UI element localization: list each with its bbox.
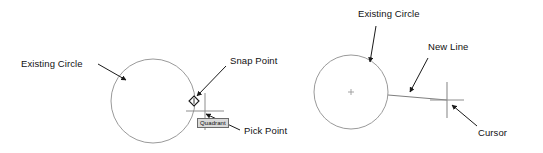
quadrant-snap-tooltip: Quadrant <box>197 118 229 128</box>
leader-new-line <box>410 58 428 92</box>
label-new-line: New Line <box>428 41 468 52</box>
leader-existing-circle-left <box>98 64 126 80</box>
circle-center-mark <box>348 89 354 95</box>
label-existing-circle-left: Existing Circle <box>21 58 83 69</box>
diagram-root: Existing Circle Snap Point Pick Point Qu… <box>0 0 543 153</box>
label-snap-point: Snap Point <box>230 55 277 66</box>
new-line-segment <box>388 95 447 100</box>
snap-point-marker <box>189 96 199 106</box>
existing-circle-left <box>111 59 195 143</box>
leader-snap-point <box>197 66 226 96</box>
label-existing-circle-right: Existing Circle <box>358 8 420 19</box>
label-pick-point: Pick Point <box>244 125 287 136</box>
leader-cursor <box>452 105 477 126</box>
cursor-crosshair <box>430 82 464 118</box>
leader-existing-circle-right <box>370 26 376 62</box>
label-cursor: Cursor <box>478 127 507 138</box>
left-panel-geometry <box>98 59 240 143</box>
